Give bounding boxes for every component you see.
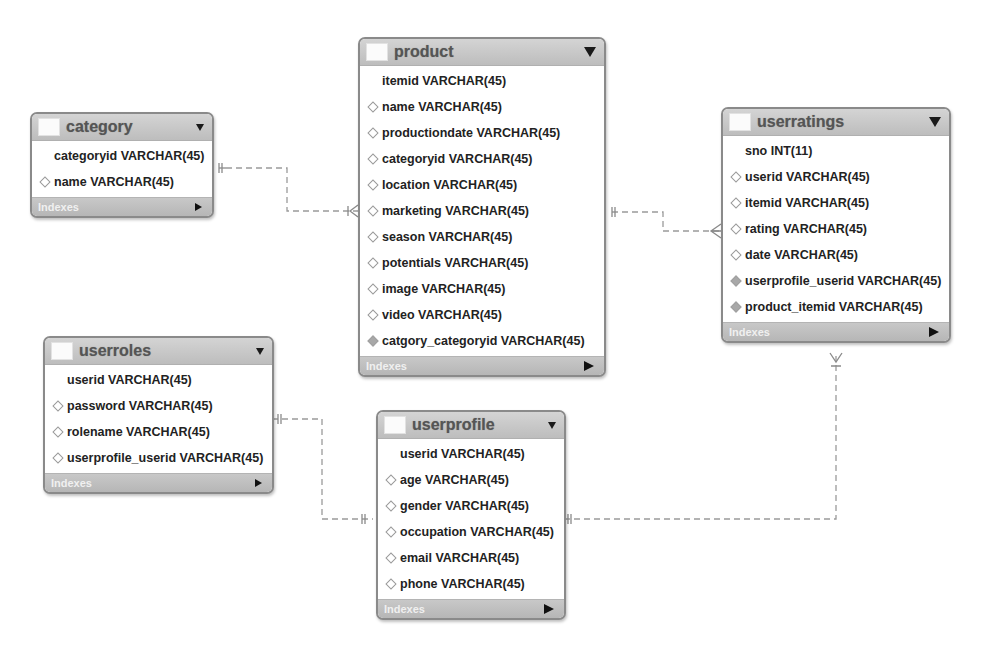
- primary-key-icon: [38, 149, 52, 163]
- one-only-one-marker: [612, 207, 615, 217]
- foreign-key-diamond-icon: [729, 300, 743, 314]
- connector-userroles-userprofile: [272, 419, 373, 519]
- expand-arrow-icon[interactable]: [584, 361, 594, 371]
- column-diamond-icon: [366, 282, 380, 296]
- column-diamond-icon: [51, 399, 65, 413]
- indexes-footer[interactable]: Indexes: [32, 197, 212, 216]
- primary-key-icon: [384, 447, 398, 461]
- indexes-footer[interactable]: Indexes: [45, 473, 272, 492]
- column-diamond-icon: [729, 170, 743, 184]
- table-userratings[interactable]: userratings sno INT(11) userid VARCHAR(4…: [721, 107, 951, 343]
- column-diamond-icon: [729, 196, 743, 210]
- table-userroles[interactable]: userroles userid VARCHAR(45) password VA…: [43, 336, 274, 494]
- column-row[interactable]: video VARCHAR(45): [360, 302, 604, 328]
- column-diamond-icon: [366, 230, 380, 244]
- connector-category-product: [226, 168, 358, 211]
- column-diamond-icon: [384, 551, 398, 565]
- indexes-footer[interactable]: Indexes: [360, 356, 604, 375]
- indexes-label: Indexes: [366, 360, 584, 372]
- column-diamond-icon: [366, 100, 380, 114]
- column-row[interactable]: email VARCHAR(45): [378, 545, 564, 571]
- column-diamond-icon: [366, 256, 380, 270]
- column-diamond-icon: [384, 525, 398, 539]
- column-row[interactable]: catgory_categoryid VARCHAR(45): [360, 328, 604, 354]
- indexes-label: Indexes: [38, 201, 195, 213]
- column-diamond-icon: [51, 451, 65, 465]
- column-row[interactable]: rolename VARCHAR(45): [45, 419, 272, 445]
- column-diamond-icon: [729, 222, 743, 236]
- column-row[interactable]: date VARCHAR(45): [723, 242, 949, 268]
- collapse-arrow-icon[interactable]: [929, 117, 941, 127]
- foreign-key-diamond-icon: [366, 334, 380, 348]
- column-row[interactable]: itemid VARCHAR(45): [360, 68, 604, 94]
- table-header[interactable]: category: [32, 114, 212, 141]
- table-userprofile[interactable]: userprofile userid VARCHAR(45) age VARCH…: [376, 410, 566, 620]
- expand-arrow-icon[interactable]: [195, 203, 202, 211]
- table-title: userratings: [757, 113, 929, 131]
- column-row[interactable]: occupation VARCHAR(45): [378, 519, 564, 545]
- column-row[interactable]: age VARCHAR(45): [378, 467, 564, 493]
- column-row[interactable]: location VARCHAR(45): [360, 172, 604, 198]
- table-icon: [729, 113, 751, 131]
- column-diamond-icon: [366, 204, 380, 218]
- table-title: category: [66, 118, 196, 136]
- column-row[interactable]: productiondate VARCHAR(45): [360, 120, 604, 146]
- column-row[interactable]: userprofile_userid VARCHAR(45): [723, 268, 949, 294]
- crows-foot-marker: [348, 205, 358, 217]
- column-row[interactable]: userid VARCHAR(45): [723, 164, 949, 190]
- column-row[interactable]: categoryid VARCHAR(45): [32, 143, 212, 169]
- column-row[interactable]: name VARCHAR(45): [32, 169, 212, 195]
- expand-arrow-icon[interactable]: [255, 479, 262, 487]
- one-only-one-marker: [568, 514, 571, 524]
- column-row[interactable]: categoryid VARCHAR(45): [360, 146, 604, 172]
- crows-foot-marker: [830, 353, 842, 366]
- table-header[interactable]: userprofile: [378, 412, 564, 439]
- table-product[interactable]: product itemid VARCHAR(45) name VARCHAR(…: [358, 37, 606, 377]
- column-row[interactable]: userid VARCHAR(45): [45, 367, 272, 393]
- connector-userprofile-userratings: [564, 356, 836, 519]
- table-header[interactable]: userratings: [723, 109, 949, 136]
- column-row[interactable]: image VARCHAR(45): [360, 276, 604, 302]
- column-row[interactable]: potentials VARCHAR(45): [360, 250, 604, 276]
- column-diamond-icon: [38, 175, 52, 189]
- column-row[interactable]: itemid VARCHAR(45): [723, 190, 949, 216]
- collapse-arrow-icon[interactable]: [256, 348, 264, 355]
- column-row[interactable]: password VARCHAR(45): [45, 393, 272, 419]
- table-icon: [51, 342, 73, 360]
- indexes-label: Indexes: [384, 603, 544, 615]
- column-row[interactable]: userprofile_userid VARCHAR(45): [45, 445, 272, 471]
- column-diamond-icon: [384, 499, 398, 513]
- table-title: userroles: [79, 342, 256, 360]
- one-only-one-marker: [219, 163, 222, 173]
- column-row[interactable]: gender VARCHAR(45): [378, 493, 564, 519]
- collapse-arrow-icon[interactable]: [584, 47, 596, 57]
- column-row[interactable]: product_itemid VARCHAR(45): [723, 294, 949, 320]
- collapse-arrow-icon[interactable]: [196, 124, 204, 131]
- indexes-label: Indexes: [729, 326, 929, 338]
- primary-key-icon: [729, 144, 743, 158]
- table-category[interactable]: category categoryid VARCHAR(45) name VAR…: [30, 112, 214, 218]
- column-row[interactable]: sno INT(11): [723, 138, 949, 164]
- column-row[interactable]: season VARCHAR(45): [360, 224, 604, 250]
- one-only-one-marker: [278, 414, 281, 424]
- table-header[interactable]: userroles: [45, 338, 272, 365]
- column-row[interactable]: userid VARCHAR(45): [378, 441, 564, 467]
- column-row[interactable]: name VARCHAR(45): [360, 94, 604, 120]
- table-header[interactable]: product: [360, 39, 604, 66]
- expand-arrow-icon[interactable]: [544, 604, 554, 614]
- column-diamond-icon: [366, 308, 380, 322]
- primary-key-icon: [366, 74, 380, 88]
- indexes-label: Indexes: [51, 477, 255, 489]
- column-row[interactable]: marketing VARCHAR(45): [360, 198, 604, 224]
- column-diamond-icon: [366, 152, 380, 166]
- indexes-footer[interactable]: Indexes: [378, 599, 564, 618]
- indexes-footer[interactable]: Indexes: [723, 322, 949, 341]
- column-diamond-icon: [51, 425, 65, 439]
- column-diamond-icon: [366, 126, 380, 140]
- column-row[interactable]: rating VARCHAR(45): [723, 216, 949, 242]
- expand-arrow-icon[interactable]: [929, 327, 939, 337]
- column-diamond-icon: [384, 577, 398, 591]
- table-icon: [366, 43, 388, 61]
- collapse-arrow-icon[interactable]: [548, 422, 556, 429]
- column-row[interactable]: phone VARCHAR(45): [378, 571, 564, 597]
